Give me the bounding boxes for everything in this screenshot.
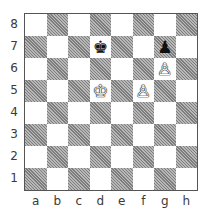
square-e7 <box>111 36 133 58</box>
square-h2 <box>176 146 198 168</box>
square-b5 <box>47 80 69 102</box>
square-c1 <box>68 168 90 190</box>
rank-label-8: 8 <box>8 17 20 31</box>
square-h7 <box>176 36 198 58</box>
square-c3 <box>68 124 90 146</box>
square-d3 <box>90 124 112 146</box>
square-e1 <box>111 168 133 190</box>
square-a7 <box>25 36 47 58</box>
square-b8 <box>47 14 69 36</box>
square-d6 <box>90 58 112 80</box>
square-g3 <box>154 124 176 146</box>
square-f7 <box>133 36 155 58</box>
file-label-b: b <box>47 194 69 208</box>
square-d1 <box>90 168 112 190</box>
square-g4 <box>154 102 176 124</box>
square-b6 <box>47 58 69 80</box>
file-label-d: d <box>90 194 112 208</box>
square-g7: ♟ <box>154 36 176 58</box>
square-d7: ♚ <box>90 36 112 58</box>
square-e4 <box>111 102 133 124</box>
square-h1 <box>176 168 198 190</box>
file-label-a: a <box>25 194 47 208</box>
square-f6 <box>133 58 155 80</box>
square-f4 <box>133 102 155 124</box>
black-king-icon: ♚ <box>93 39 108 56</box>
square-f2 <box>133 146 155 168</box>
square-g2 <box>154 146 176 168</box>
square-c6 <box>68 58 90 80</box>
square-e6 <box>111 58 133 80</box>
square-h5 <box>176 80 198 102</box>
square-f3 <box>133 124 155 146</box>
square-c7 <box>68 36 90 58</box>
rank-label-3: 3 <box>8 127 20 141</box>
file-label-c: c <box>68 194 90 208</box>
square-d2 <box>90 146 112 168</box>
square-g5 <box>154 80 176 102</box>
file-label-g: g <box>154 194 176 208</box>
square-a2 <box>25 146 47 168</box>
square-h8 <box>176 14 198 36</box>
square-h6 <box>176 58 198 80</box>
square-d4 <box>90 102 112 124</box>
white-king-icon: ♔ <box>93 83 108 100</box>
rank-label-6: 6 <box>8 61 20 75</box>
file-label-e: e <box>111 194 133 208</box>
black-pawn-icon: ♟ <box>157 39 172 56</box>
square-c4 <box>68 102 90 124</box>
white-pawn-icon: ♙ <box>157 61 172 78</box>
rank-label-5: 5 <box>8 83 20 97</box>
square-h3 <box>176 124 198 146</box>
square-f5: ♙ <box>133 80 155 102</box>
square-e8 <box>111 14 133 36</box>
chess-board: ♚♟♙♔♙ <box>24 13 198 191</box>
rank-label-2: 2 <box>8 149 20 163</box>
square-h4 <box>176 102 198 124</box>
square-e3 <box>111 124 133 146</box>
square-d8 <box>90 14 112 36</box>
rank-label-4: 4 <box>8 105 20 119</box>
square-a4 <box>25 102 47 124</box>
square-c5 <box>68 80 90 102</box>
square-b1 <box>47 168 69 190</box>
white-pawn-icon: ♙ <box>136 83 151 100</box>
square-f8 <box>133 14 155 36</box>
square-b7 <box>47 36 69 58</box>
square-a6 <box>25 58 47 80</box>
square-d5: ♔ <box>90 80 112 102</box>
square-b4 <box>47 102 69 124</box>
square-b3 <box>47 124 69 146</box>
square-c8 <box>68 14 90 36</box>
square-g1 <box>154 168 176 190</box>
square-g8 <box>154 14 176 36</box>
file-label-h: h <box>176 194 198 208</box>
square-e2 <box>111 146 133 168</box>
square-b2 <box>47 146 69 168</box>
square-a1 <box>25 168 47 190</box>
rank-label-7: 7 <box>8 39 20 53</box>
square-e5 <box>111 80 133 102</box>
rank-label-1: 1 <box>8 171 20 185</box>
square-g6: ♙ <box>154 58 176 80</box>
file-label-f: f <box>133 194 155 208</box>
square-a8 <box>25 14 47 36</box>
square-a5 <box>25 80 47 102</box>
square-a3 <box>25 124 47 146</box>
square-c2 <box>68 146 90 168</box>
square-f1 <box>133 168 155 190</box>
